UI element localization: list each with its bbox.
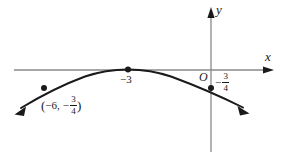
vertex-x-label: −3 — [120, 74, 132, 85]
x-axis-label: x — [265, 50, 271, 63]
point-vertex — [125, 67, 131, 73]
y-axis-arrowhead — [207, 7, 214, 18]
y-intercept-label: − 3 4 — [215, 72, 229, 93]
origin-label: O — [199, 71, 208, 83]
y-intercept-minus-sign: − — [215, 77, 222, 88]
y-intercept-fraction: 3 4 — [222, 72, 229, 93]
point-y-intercept — [208, 85, 214, 91]
coordinate-plane-svg — [0, 0, 285, 158]
point-y-fraction: 3 4 — [70, 95, 77, 116]
point-minus6 — [41, 85, 47, 91]
y-intercept-numerator: 3 — [222, 72, 229, 82]
y-intercept-denominator: 4 — [222, 83, 229, 93]
x-axis-arrowhead — [263, 66, 274, 73]
point-numerator: 3 — [70, 95, 77, 105]
y-axis-label: y — [216, 3, 222, 16]
point-x-value: −6, — [45, 100, 59, 111]
graph-figure: x y O −3 − 3 4 ( −6, − 3 4 ) — [0, 0, 285, 158]
point-minus-sign: − — [60, 100, 70, 111]
coordinate-point-label: ( −6, − 3 4 ) — [41, 95, 81, 116]
close-paren: ) — [77, 99, 81, 112]
point-denominator: 4 — [70, 106, 77, 116]
